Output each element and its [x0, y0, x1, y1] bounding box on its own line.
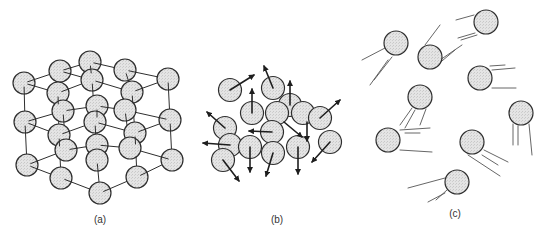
- lattice-bond-stub: [97, 164, 98, 171]
- motion-streak: [405, 110, 415, 128]
- gas-particle: [468, 66, 492, 90]
- panel-b-label: (b): [271, 214, 283, 225]
- panel-c-gas: [362, 10, 533, 202]
- motion-streak: [529, 124, 532, 155]
- gas-particle: [474, 10, 498, 34]
- motion-streak: [492, 68, 515, 70]
- solid-particle: [52, 100, 74, 122]
- gas-particle: [408, 85, 432, 109]
- lattice-bond-stub: [101, 145, 108, 146]
- solid-particle: [49, 60, 71, 82]
- motion-streak: [482, 155, 498, 165]
- solid-particle: [161, 149, 183, 171]
- motion-streak: [425, 25, 440, 45]
- motion-streak: [456, 15, 474, 20]
- gas-particle: [509, 101, 533, 125]
- panel-a-solid: [13, 51, 183, 204]
- gas-particle: [460, 130, 484, 154]
- gas-particle: [384, 31, 408, 55]
- motion-streak: [440, 45, 462, 60]
- motion-streak: [408, 178, 445, 188]
- solid-particle: [55, 139, 77, 161]
- solid-particle: [126, 166, 148, 188]
- solid-particle: [86, 149, 108, 171]
- motion-streak: [400, 150, 432, 152]
- motion-streak: [400, 108, 412, 125]
- motion-streak: [374, 57, 392, 80]
- motion-streak: [370, 60, 388, 85]
- solid-particle: [81, 69, 103, 91]
- lattice-bond-stub: [132, 96, 133, 103]
- motion-streak: [400, 128, 430, 130]
- lattice-bond-stub: [63, 115, 64, 122]
- panel-c-label: (c): [449, 208, 461, 219]
- motion-streak: [484, 150, 508, 162]
- motion-streak: [461, 35, 477, 40]
- diagram-stage: (a) (b) (c): [0, 0, 543, 235]
- gas-particle: [445, 170, 469, 194]
- panel-a-label: (a): [94, 214, 106, 225]
- motion-streak: [490, 65, 505, 66]
- panel-b-liquid: [203, 66, 342, 181]
- motion-streak: [362, 48, 385, 60]
- solid-particle: [119, 137, 141, 159]
- solid-particle: [50, 167, 72, 189]
- motion-streak: [458, 33, 475, 38]
- gas-particle: [376, 128, 400, 152]
- solid-particle: [114, 59, 136, 81]
- solid-particle: [89, 182, 111, 204]
- solid-particle: [16, 154, 38, 176]
- motion-streak: [468, 155, 500, 176]
- velocity-arrow: [249, 131, 272, 132]
- motion-streak: [428, 193, 445, 202]
- gas-particle: [418, 45, 442, 69]
- states-of-matter-diagram: [0, 0, 543, 235]
- motion-streak: [420, 109, 426, 125]
